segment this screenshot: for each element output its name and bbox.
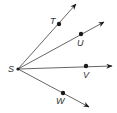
ray-su — [18, 22, 104, 69]
point-v — [84, 64, 88, 68]
ray-st — [18, 4, 76, 69]
point-u — [79, 32, 83, 36]
point-label-t: T — [50, 16, 57, 26]
rays-group — [18, 4, 112, 107]
point-w — [61, 91, 65, 95]
point-label-v: V — [83, 70, 90, 80]
rays-diagram: S TUVW — [0, 0, 117, 113]
labels-group: S TUVW — [8, 16, 90, 106]
point-label-u: U — [77, 38, 84, 48]
ray-sv — [18, 66, 112, 69]
ray-sw — [18, 69, 89, 107]
vertex-point-s — [16, 67, 19, 70]
vertex-label-s: S — [8, 64, 14, 74]
point-label-w: W — [56, 96, 66, 106]
point-t — [57, 22, 61, 26]
